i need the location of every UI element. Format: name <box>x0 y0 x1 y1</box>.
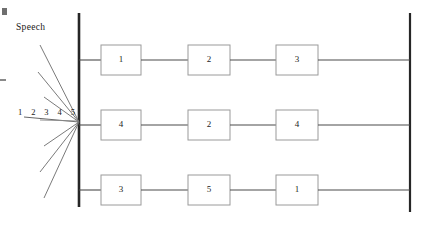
edge-dash-mark <box>0 79 6 81</box>
box-label: 2 <box>188 119 230 129</box>
diagram-canvas: Speech 1 2 3 4 5 1 2 3 4 2 4 3 5 1 <box>0 0 422 225</box>
box-label: 2 <box>188 54 230 64</box>
corner-square-mark <box>2 8 7 15</box>
fan-ray-4 <box>24 117 79 122</box>
box-label: 1 <box>100 54 142 64</box>
box-label: 5 <box>188 184 230 194</box>
input-label-underline <box>40 120 79 121</box>
input-number-labels: 1 2 3 4 5 <box>18 107 78 117</box>
input-fan-lines <box>24 45 79 198</box>
speech-label: Speech <box>16 22 45 32</box>
box-label: 1 <box>276 184 318 194</box>
box-label: 4 <box>276 119 318 129</box>
box-label: 3 <box>276 54 318 64</box>
box-label: 3 <box>100 184 142 194</box>
box-label: 4 <box>100 119 142 129</box>
